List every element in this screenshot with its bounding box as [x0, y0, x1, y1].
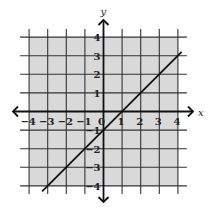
- x-tick-label: 2: [136, 116, 143, 127]
- coordinate-plane: −4−3−2−1012344321−1−2−3−4 x y: [0, 0, 213, 212]
- y-tick-label: 1: [94, 88, 101, 99]
- y-axis-label: y: [100, 6, 107, 17]
- x-tick-label: −3: [39, 116, 54, 127]
- y-tick-label: −4: [85, 181, 100, 192]
- y-tick-label: −3: [85, 162, 100, 173]
- x-tick-label: 4: [173, 116, 180, 127]
- y-tick-label: 4: [94, 32, 101, 43]
- x-tick-label: −2: [58, 116, 73, 127]
- x-tick-label: −4: [20, 116, 35, 127]
- y-tick-label: 2: [94, 69, 101, 80]
- y-tick-label: 3: [94, 51, 101, 62]
- graph-figure: −4−3−2−1012344321−1−2−3−4 x y: [0, 0, 213, 212]
- x-tick-label: 3: [155, 116, 162, 127]
- x-tick-label: 1: [118, 116, 125, 127]
- x-axis-label: x: [198, 107, 204, 118]
